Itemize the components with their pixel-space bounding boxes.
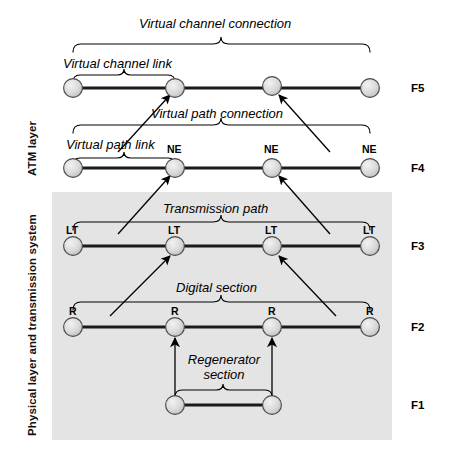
level-label-f5: F5 — [411, 82, 424, 94]
node-f3-2[interactable] — [166, 237, 185, 256]
arrow-f4n3-to-f5n3 — [279, 95, 330, 152]
node-label-f4-4: NE — [362, 143, 377, 155]
node-f4-3[interactable] — [263, 159, 282, 178]
level-label-f3: F3 — [411, 240, 424, 252]
label-regenerator-section-line2: section — [178, 367, 270, 382]
node-f1-1[interactable] — [166, 396, 185, 415]
node-f2-3[interactable] — [263, 318, 282, 337]
node-f3-4[interactable] — [361, 237, 380, 256]
axis-label-atm-layer: ATM layer — [26, 121, 38, 176]
node-label-f4-3: NE — [264, 143, 279, 155]
node-label-f2-3: R — [268, 305, 276, 317]
node-f3-3[interactable] — [263, 237, 282, 256]
node-f1-2[interactable] — [263, 396, 282, 415]
node-label-f2-4: R — [366, 305, 374, 317]
diagram-canvas: ATM layer Physical layer and transmissio… — [0, 0, 450, 458]
level-label-f4: F4 — [411, 162, 424, 174]
node-f5-2[interactable] — [166, 79, 185, 98]
node-f5-3[interactable] — [263, 77, 282, 96]
level-label-f2: F2 — [411, 321, 424, 333]
node-label-f2-1: R — [69, 305, 77, 317]
node-label-f3-2: LT — [168, 224, 180, 236]
node-f2-2[interactable] — [166, 318, 185, 337]
node-f5-1[interactable] — [64, 79, 83, 98]
physical-layer-shaded-region — [52, 192, 392, 440]
label-virtual-path-connection: Virtual path connection — [151, 106, 283, 121]
label-virtual-channel-connection: Virtual channel connection — [139, 16, 291, 31]
brace-virtual-path-link — [73, 152, 175, 165]
level-label-f1: F1 — [411, 399, 424, 411]
node-f3-1[interactable] — [64, 237, 83, 256]
node-f2-1[interactable] — [64, 318, 83, 337]
label-regenerator-section-line1: Regenerator — [178, 352, 270, 367]
label-transmission-path: Transmission path — [163, 201, 268, 216]
node-label-f3-4: LT — [363, 224, 375, 236]
node-label-f4-2: NE — [167, 143, 182, 155]
node-f4-1[interactable] — [64, 159, 83, 178]
label-virtual-path-link: Virtual path link — [66, 137, 155, 152]
label-digital-section: Digital section — [176, 280, 257, 295]
node-f2-4[interactable] — [361, 318, 380, 337]
node-label-f3-3: LT — [265, 224, 277, 236]
node-label-f3-1: LT — [66, 224, 78, 236]
node-f5-4[interactable] — [361, 79, 380, 98]
node-label-f2-2: R — [171, 305, 179, 317]
axis-label-physical-layer: Physical layer and transmission system — [26, 214, 38, 436]
brace-virtual-channel-connection — [73, 37, 370, 52]
node-f4-2[interactable] — [166, 159, 185, 178]
node-f4-4[interactable] — [361, 159, 380, 178]
label-virtual-channel-link: Virtual channel link — [63, 56, 172, 71]
